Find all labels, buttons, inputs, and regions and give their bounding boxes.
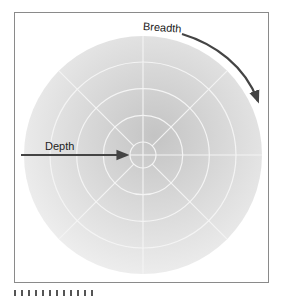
- figure-caption-clipped: [0, 288, 281, 296]
- caption-glyph-tops: [14, 290, 93, 296]
- breadth-depth-diagram: [0, 0, 281, 296]
- depth-label: Depth: [45, 140, 74, 152]
